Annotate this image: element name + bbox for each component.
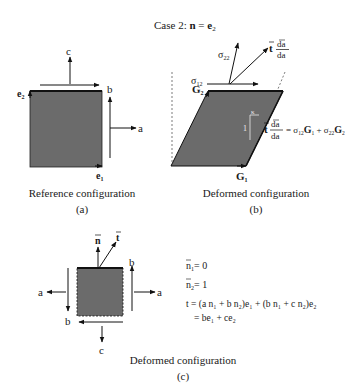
svg-text:da: da bbox=[271, 131, 280, 141]
label-e1: e1 bbox=[96, 170, 103, 182]
label-c-down: c bbox=[99, 344, 104, 356]
sublabel-c: (c) bbox=[177, 370, 190, 383]
svg-text:t: t bbox=[269, 42, 273, 54]
label-e2: e2 bbox=[17, 88, 24, 100]
label-traction-top: t da da bbox=[269, 39, 289, 60]
svg-text:da: da bbox=[277, 39, 286, 49]
svg-text:t = (a n₁ + b n₂)e₁ + (b n₁ +: t = (a n₁ + b n₂)e₁ + (b n₁ + c n₂)e₂ bbox=[186, 299, 316, 310]
label-a-left: a bbox=[38, 286, 43, 298]
label-a-right: a bbox=[157, 286, 162, 298]
label-kappa: κ bbox=[251, 108, 255, 116]
svg-text:n2= 1: n2= 1 bbox=[186, 279, 207, 291]
svg-text:= be₁ + ce₂: = be₁ + ce₂ bbox=[194, 313, 236, 323]
label-sigma12: σ12 bbox=[191, 75, 202, 87]
label-b: b bbox=[107, 83, 113, 95]
caption-c: Deformed configuration bbox=[130, 354, 237, 366]
sublabel-a: (a) bbox=[76, 203, 89, 216]
label-a: a bbox=[138, 122, 143, 134]
panel-c-deformed: n t a a b b c n1= 0 n2= 1 t = (a n₁ + b … bbox=[38, 232, 316, 383]
label-c: c bbox=[66, 45, 71, 57]
reference-square bbox=[30, 91, 102, 167]
label-t: t bbox=[116, 232, 120, 243]
label-sigma22: σ22 bbox=[218, 49, 229, 61]
arrow-t bbox=[99, 242, 116, 268]
panel-b-deformed: κ 1 G2 G1 σ12 σ22 t da da t da d bbox=[171, 39, 345, 216]
label-b-left: b bbox=[65, 315, 71, 327]
figure-title: Case 2: n = e2 bbox=[154, 19, 216, 33]
diagram-canvas: Case 2: n = e2 c b a e2 e1 Reference con… bbox=[0, 0, 364, 390]
svg-text:da: da bbox=[277, 50, 286, 60]
svg-text:t: t bbox=[264, 123, 268, 135]
svg-text:= σ12G1 + σ22G2: = σ12G1 + σ22G2 bbox=[286, 124, 345, 136]
label-b-right: b bbox=[129, 256, 135, 268]
caption-b: Deformed configuration bbox=[203, 187, 310, 199]
panel-a-reference: c b a e2 e1 Reference configuration (a) bbox=[17, 45, 143, 216]
label-n: n bbox=[95, 235, 101, 246]
traction-equation: t da da = σ12G1 + σ22G2 bbox=[264, 119, 345, 141]
label-G1: G1 bbox=[236, 170, 248, 183]
element-square bbox=[77, 268, 123, 316]
svg-text:n1= 0: n1= 0 bbox=[186, 260, 207, 272]
caption-a: Reference configuration bbox=[29, 187, 136, 199]
label-one: 1 bbox=[243, 124, 247, 133]
svg-text:da: da bbox=[271, 119, 280, 129]
panel-c-equations: n1= 0 n2= 1 t = (a n₁ + b n₂)e₁ + (b n₁ … bbox=[186, 260, 316, 323]
sublabel-b: (b) bbox=[250, 203, 263, 216]
